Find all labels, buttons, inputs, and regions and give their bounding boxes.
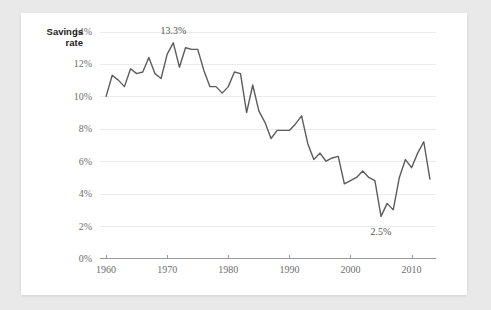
y-axis-tick-label: 4% bbox=[79, 188, 92, 199]
x-axis-tick-label: 1990 bbox=[279, 264, 299, 275]
data-annotation-label: 2.5% bbox=[371, 226, 392, 237]
x-axis-tick-labels: 196019701980199020002010 bbox=[96, 264, 421, 275]
x-axis-tick-label: 2000 bbox=[340, 264, 360, 275]
y-axis-tick-labels: 0%2%4%6%8%10%12%14% bbox=[74, 26, 92, 264]
data-annotation-label: 13.3% bbox=[160, 25, 186, 36]
chart-container: 0%2%4%6%8%10%12%14% 19601970198019902000… bbox=[21, 13, 467, 295]
y-axis-title-line2: rate bbox=[66, 37, 83, 48]
y-axis-tick-label: 6% bbox=[79, 156, 92, 167]
x-axis-tick-label: 1980 bbox=[218, 264, 238, 275]
y-axis-tick-label: 0% bbox=[79, 253, 92, 264]
y-axis-tick-label: 8% bbox=[79, 123, 92, 134]
savings-rate-line-chart: 0%2%4%6%8%10%12%14% 19601970198019902000… bbox=[21, 13, 467, 295]
chart-card: 0%2%4%6%8%10%12%14% 19601970198019902000… bbox=[21, 13, 467, 295]
y-axis-tick-label: 10% bbox=[74, 91, 92, 102]
x-axis-tick-marks bbox=[107, 255, 413, 259]
x-axis-tick-label: 2010 bbox=[402, 264, 422, 275]
y-axis-tick-label: 2% bbox=[79, 221, 92, 232]
y-axis-tick-label: 12% bbox=[74, 58, 92, 69]
x-axis-tick-label: 1970 bbox=[157, 264, 177, 275]
x-axis-tick-label: 1960 bbox=[96, 264, 116, 275]
y-axis-title-line1: Savings bbox=[47, 26, 83, 37]
